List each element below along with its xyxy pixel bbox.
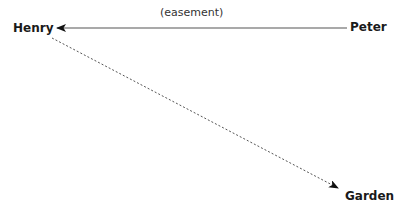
diagram-edges xyxy=(0,0,401,211)
node-garden: Garden xyxy=(345,189,394,203)
node-henry: Henry xyxy=(13,21,53,35)
easement-label: (easement) xyxy=(160,6,223,19)
diagram-canvas: Henry Peter Garden (easement) xyxy=(0,0,401,211)
node-peter: Peter xyxy=(350,20,387,34)
henry-to-garden-dashed-arrow xyxy=(52,38,338,188)
